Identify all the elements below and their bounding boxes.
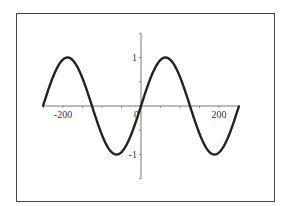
x-tick-label: -200 — [54, 109, 72, 120]
y-tick-label: 1 — [132, 52, 137, 63]
y-tick-label: -1 — [129, 149, 137, 160]
sine-chart: -20002001-1 — [0, 0, 286, 206]
x-tick-label: 200 — [212, 109, 227, 120]
